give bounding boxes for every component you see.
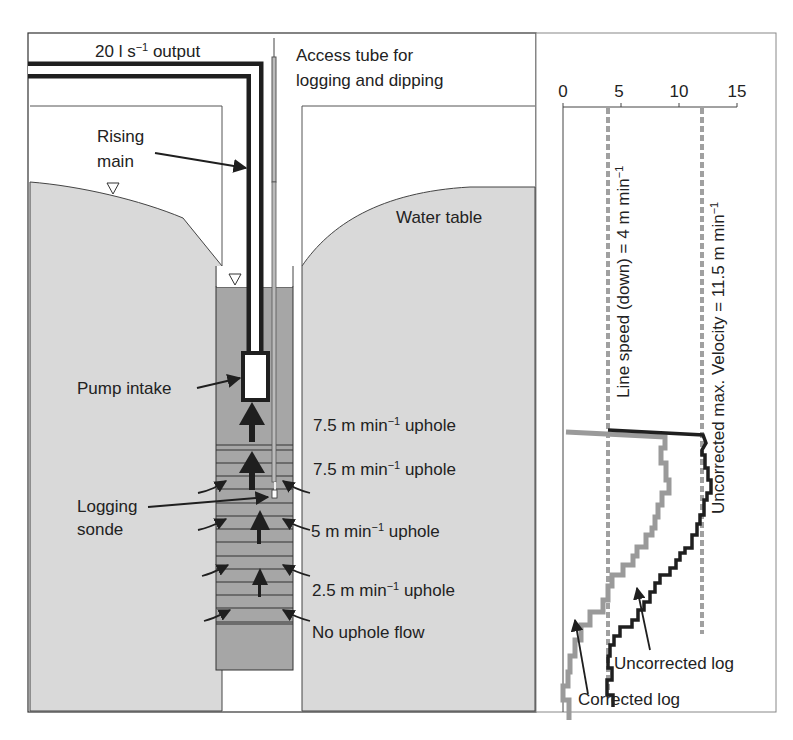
access-tube-label-line1: Access tube for	[296, 46, 413, 66]
flow-label-2: 7.5 m min−1 uphole	[313, 460, 456, 480]
x-tick-10: 10	[670, 82, 689, 102]
x-tick-15: 15	[728, 82, 747, 102]
rising-main-label-line2: main	[97, 152, 134, 172]
line-speed-label: Line speed (down) = 4 m min−1	[614, 166, 634, 398]
x-tick-5: 5	[614, 82, 623, 102]
flow-label-4: 2.5 m min−1 uphole	[312, 581, 455, 601]
water-table-label: Water table	[396, 208, 482, 228]
flow-label-1: 7.5 m min−1 uphole	[313, 416, 456, 436]
aquifer-left	[30, 182, 222, 711]
corrected-log-label: Corrected log	[578, 690, 680, 710]
x-tick-0: 0	[558, 82, 567, 102]
logging-sonde	[272, 490, 277, 498]
access-tube-label-line2: logging and dipping	[296, 71, 443, 91]
pump-intake	[243, 353, 268, 400]
pump-intake-label: Pump intake	[77, 379, 172, 399]
right-panel-frame	[536, 33, 776, 712]
access-tube	[272, 57, 276, 182]
rising-main-label-line1: Rising	[97, 127, 144, 147]
max-velocity-label: Uncorrected max. Velocity = 11.5 m min−1	[709, 202, 729, 514]
flow-label-3: 5 m min−1 uphole	[311, 522, 440, 542]
logging-sonde-label-line2: sonde	[77, 520, 123, 540]
output-label: 20 l s−1 output	[95, 42, 200, 62]
logging-sonde-label-line1: Logging	[77, 497, 138, 517]
uncorrected-log-label: Uncorrected log	[614, 654, 734, 674]
flow-label-5: No uphole flow	[312, 623, 424, 643]
